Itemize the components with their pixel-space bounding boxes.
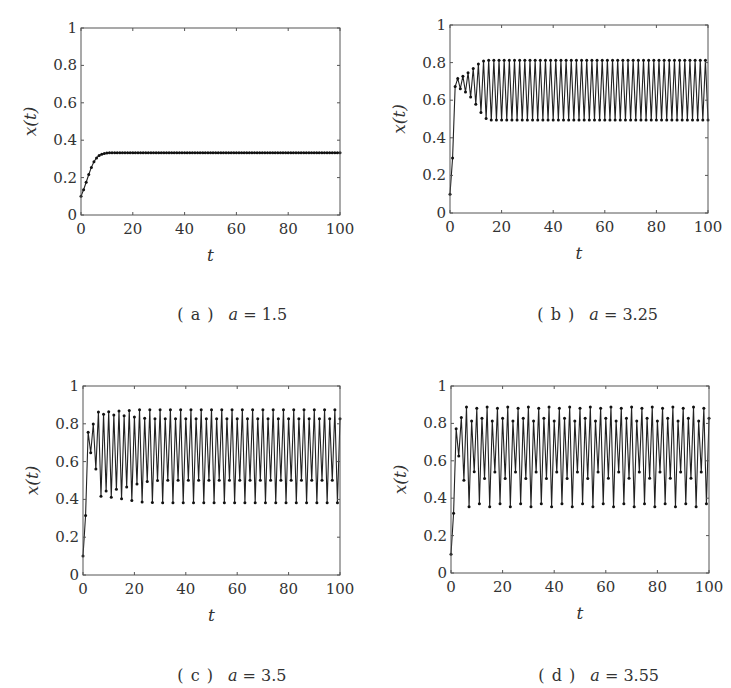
x-tick-label: 100 [695,578,724,596]
data-point [537,407,540,410]
data-point [669,477,672,480]
caption-param: a = 3.5 [228,666,287,685]
data-point [524,477,527,480]
data-point [542,417,545,420]
data-point [692,406,695,409]
data-point [689,477,692,480]
data-point [548,406,551,409]
y-tick-label: 1 [437,377,447,395]
data-point [452,512,455,515]
data-point [499,502,502,505]
data-point [635,420,638,423]
data-point [486,406,489,409]
data-point [501,417,504,420]
x-axis-label: t [577,603,584,623]
data-point [643,502,646,505]
y-tick-label: 0.6 [423,452,447,470]
data-point [651,406,654,409]
data-point [468,505,471,508]
data-point [532,420,535,423]
data-point [674,505,677,508]
data-point [457,455,460,458]
data-point [496,407,499,410]
data-point [591,505,594,508]
caption-param: a = 3.55 [590,666,659,685]
y-tick-label: 0.8 [423,414,447,432]
data-point [540,502,543,505]
data-point [511,420,514,423]
data-series [450,406,711,556]
data-point [677,420,680,423]
data-point [628,477,631,480]
data-point [517,407,520,410]
data-point [589,406,592,409]
caption-b: ( b )a = 3.25 [517,286,658,343]
data-point [522,417,525,420]
data-point [617,470,620,473]
x-tick-label: 0 [446,578,456,596]
data-point [550,505,553,508]
data-point [462,479,465,482]
data-point [705,502,708,505]
data-point [661,407,664,410]
data-point [455,427,458,430]
y-tick-label: 0.2 [423,527,447,545]
data-point [555,470,558,473]
data-point [697,420,700,423]
data-point [646,417,649,420]
caption-param: a = 3.25 [589,305,658,324]
chart-svg: 02040608010000.20.40.60.81tx(t) [0,0,731,688]
data-point [527,406,530,409]
y-axis-label: x(t) [390,465,410,495]
data-point [658,470,661,473]
data-point [573,420,576,423]
caption-label: ( d ) [538,666,576,685]
data-point [504,477,507,480]
data-point [615,420,618,423]
data-point [700,470,703,473]
data-point [576,470,579,473]
caption-label: ( a ) [177,305,214,324]
caption-d: ( d )a = 3.55 [518,647,659,688]
data-point [558,407,561,410]
data-point [545,477,548,480]
data-point [687,417,690,420]
data-point [584,417,587,420]
data-point [599,407,602,410]
data-point [622,502,625,505]
y-tick-label: 0.4 [423,489,447,507]
data-point [648,477,651,480]
data-point [684,502,687,505]
data-point [473,470,476,473]
data-point [638,470,641,473]
data-point [671,406,674,409]
data-point [602,502,605,505]
data-point [597,470,600,473]
data-point [483,477,486,480]
data-point [514,470,517,473]
data-point [560,502,563,505]
data-point [529,505,532,508]
data-point [609,406,612,409]
x-tick-label: 60 [596,578,615,596]
data-point [475,407,478,410]
data-point [620,407,623,410]
data-point [679,470,682,473]
data-point [470,420,473,423]
data-point [566,477,569,480]
data-point [509,505,512,508]
x-tick-label: 20 [493,578,512,596]
data-point [586,477,589,480]
data-point [653,505,656,508]
data-point [666,417,669,420]
data-point [656,420,659,423]
caption-c: ( c )a = 3.5 [157,647,287,688]
data-point [506,406,509,409]
data-point [702,407,705,410]
x-tick-label: 80 [648,578,667,596]
caption-param: a = 1.5 [229,305,288,324]
data-point [478,502,481,505]
data-point [519,502,522,505]
data-point [491,420,494,423]
data-point [581,502,584,505]
